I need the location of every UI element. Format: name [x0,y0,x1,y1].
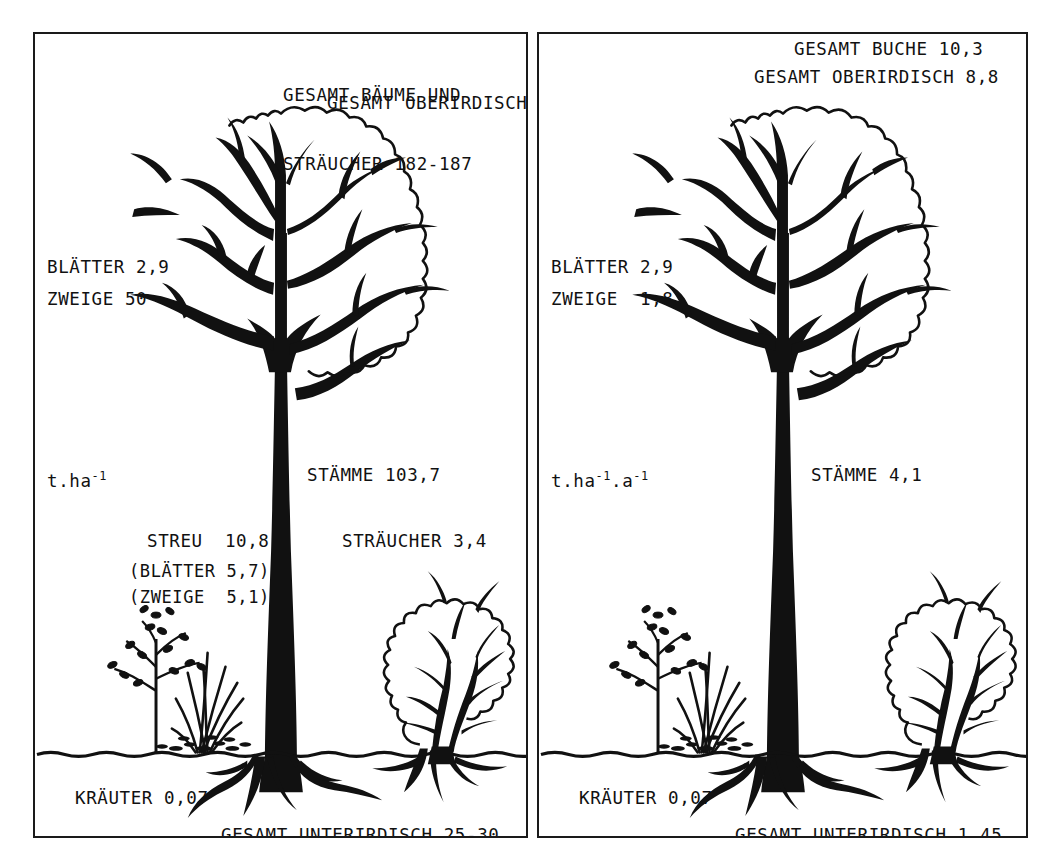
branch-left-top [216,137,279,221]
branch-left-top [718,137,781,221]
branch-center-top-right [788,139,817,185]
label-litter: STREU 10,8 [147,530,270,553]
branch-left-mid [678,238,776,295]
branch-left-upper-twig2 [130,153,172,183]
label-litter-leaves: (BLÄTTER 5,7) [129,560,270,582]
label-stems: STÄMME 4,1 [811,464,922,487]
sapling [107,604,208,752]
shrub [874,571,1015,802]
branch-left-upper-twig [634,207,682,217]
branch-right-upper [789,165,888,235]
shrub-roots [372,746,507,802]
label-total-belowground: GESAMT UNTERIRDISCH 1,45 [735,824,1002,838]
label-total-trees-shrubs: GESAMT BÄUME UND STRÄUCHER 182-187 [283,38,472,223]
branch-left-mid [176,238,274,295]
branch-left-upper-twig2 [632,153,674,183]
panel-biomass: GESAMT BÄUME UND STRÄUCHER 182-187 GESAM… [33,32,528,838]
branch-left-mid-twig2 [247,245,265,277]
label-twigs: ZWEIGE 1,8 [551,288,674,311]
label-herbs: KRÄUTER 0,07 [75,787,209,810]
label-stems: STÄMME 103,7 [307,464,441,487]
sapling [609,604,710,752]
tree-trunk [767,362,799,790]
label-shrubs: STRÄUCHER 3,4 [342,530,487,553]
label-total-aboveground: GESAMT OBERIRDISCH 8,8 [754,66,999,89]
branch-left-upper-twig [132,207,180,217]
label-litter-twigs: (ZWEIGE 5,1) [129,586,270,608]
label-total-belowground: GESAMT UNTERIRDISCH 25-30 [221,824,499,838]
panel-production: GESAMT BUCHE 10,3 GESAMT OBERIRDISCH 8,8… [537,32,1028,838]
tree-scene-right [539,34,1026,836]
branch-left-mid-twig2 [749,245,767,277]
branch-right-upper-twig1 [841,151,863,199]
label-leaves: BLÄTTER 2,9 [551,256,674,279]
label-total-beech: GESAMT BUCHE 10,3 [794,38,983,61]
label-twigs: ZWEIGE 50 [47,288,147,311]
label-leaves: BLÄTTER 2,9 [47,256,170,279]
figure-canvas: GESAMT BÄUME UND STRÄUCHER 182-187 GESAM… [0,0,1061,867]
branch-right-upper-twig2 [872,157,908,175]
shrub [372,571,513,802]
label-herbs: KRÄUTER 0,07 [579,787,713,810]
label-unit: t.ha-1.a-1 [551,470,649,493]
label-total-aboveground: GESAMT OBERIRDISCH 157 [327,92,528,115]
label-unit: t.ha-1 [47,470,107,493]
